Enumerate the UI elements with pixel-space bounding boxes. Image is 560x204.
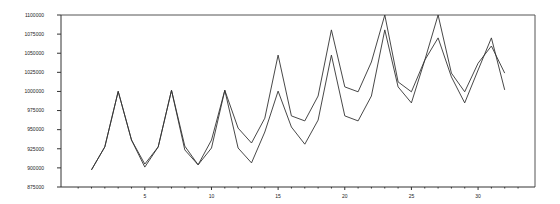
x-tick-label: 10 xyxy=(209,193,215,199)
y-tick-label: 1075000 xyxy=(25,31,45,37)
x-tick-label: 20 xyxy=(342,193,348,199)
x-tick-label: 15 xyxy=(275,193,281,199)
line-chart: 8750009000009250009500009750001000000102… xyxy=(0,0,560,204)
y-tick-label: 925000 xyxy=(27,146,44,152)
y-axis: 8750009000009250009500009750001000000102… xyxy=(25,12,61,190)
y-tick-label: 975000 xyxy=(27,107,44,113)
y-tick-label: 1000000 xyxy=(25,88,45,94)
series-1-line xyxy=(92,15,505,170)
y-tick-label: 1025000 xyxy=(25,69,45,75)
x-tick-label: 30 xyxy=(475,193,481,199)
y-tick-label: 1100000 xyxy=(25,12,44,18)
x-axis: 51015202530 xyxy=(61,187,535,199)
series-2-line xyxy=(92,30,505,170)
x-tick-label: 5 xyxy=(143,193,146,199)
y-tick-label: 900000 xyxy=(27,165,44,171)
series-group xyxy=(92,15,505,170)
y-tick-label: 875000 xyxy=(27,184,44,190)
x-tick-label: 25 xyxy=(409,193,415,199)
y-tick-label: 950000 xyxy=(27,126,44,132)
y-tick-label: 1050000 xyxy=(25,50,45,56)
